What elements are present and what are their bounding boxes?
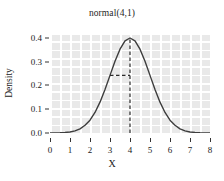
- x-tick-label: 5: [140, 145, 160, 155]
- x-tick-mark: [190, 138, 191, 142]
- x-tick-label: 4: [120, 145, 140, 155]
- x-tick-label: 0: [40, 145, 60, 155]
- x-axis-label: X: [0, 158, 224, 169]
- y-tick-label: 0.1: [12, 104, 42, 114]
- y-tick-label: 0.2: [12, 80, 42, 90]
- y-tick-mark: [45, 133, 49, 134]
- x-tick-label: 8: [200, 145, 220, 155]
- density-plot-figure: normal(4,1) Density 0.00.10.20.30.4 0123…: [0, 0, 224, 181]
- x-tick-mark: [170, 138, 171, 142]
- y-tick-label: 0.4: [12, 33, 42, 43]
- x-tick-label: 2: [80, 145, 100, 155]
- y-tick-mark: [45, 109, 49, 110]
- x-tick-label: 3: [100, 145, 120, 155]
- x-tick-mark: [70, 138, 71, 142]
- x-tick-label: 1: [60, 145, 80, 155]
- x-tick-mark: [130, 138, 131, 142]
- x-tick-mark: [50, 138, 51, 142]
- y-tick-label: 0.3: [12, 57, 42, 67]
- x-tick-label: 6: [160, 145, 180, 155]
- x-tick-mark: [150, 138, 151, 142]
- y-tick-mark: [45, 85, 49, 86]
- y-tick-mark: [45, 61, 49, 62]
- plot-canvas: [50, 33, 210, 133]
- y-tick-label: 0.0: [12, 128, 42, 138]
- y-tick-mark: [45, 37, 49, 38]
- plot-area: [50, 33, 210, 133]
- x-tick-mark: [90, 138, 91, 142]
- x-tick-label: 7: [180, 145, 200, 155]
- x-tick-mark: [110, 138, 111, 142]
- x-tick-mark: [210, 138, 211, 142]
- chart-title: normal(4,1): [0, 8, 224, 18]
